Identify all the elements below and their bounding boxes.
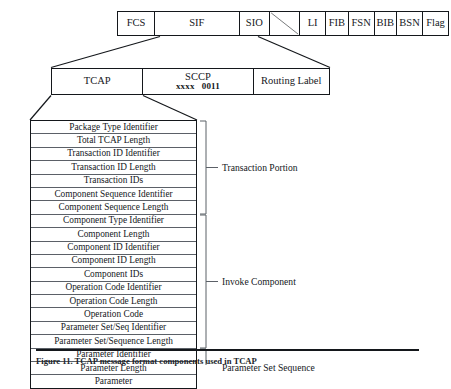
tcap-field-label: Operation Code	[84, 310, 143, 319]
figure-caption: Figure 11. TCAP message format component…	[36, 356, 436, 366]
tcap-field-row: Component ID Length	[31, 255, 196, 268]
frame-cell-flag: Flag	[423, 12, 448, 35]
tcap-field-label: Component ID Length	[71, 256, 155, 265]
footer-divider	[36, 349, 419, 351]
sif-cell-subvalue: xxxx0011	[176, 82, 220, 91]
frame-cell-fib: FIB	[326, 12, 349, 35]
sif-cell-routing-label: Routing Label	[254, 69, 329, 94]
bracket-label: Invoke Component	[222, 276, 296, 287]
tcap-field-row: Component Sequence Identifier	[31, 188, 196, 201]
tcap-field-label: Parameter Set/Sequence Length	[54, 337, 173, 346]
tcap-field-label: Component Sequence Length	[59, 203, 169, 212]
tcap-field-row: Parameter Set/Sequence Length	[31, 335, 196, 348]
tcap-field-row: Component ID Identifier	[31, 242, 196, 255]
frame-cell-fsn: FSN	[349, 12, 375, 35]
tcap-field-label: Component IDs	[84, 270, 143, 279]
tcap-field-row: Parameter	[31, 375, 196, 387]
sif-cell-label: TCAP	[84, 76, 111, 87]
msu-frame-row: FCSSIFSIOLIFIBFSNBIBBSNFlag	[117, 11, 449, 36]
tcap-field-row: Component Length	[31, 228, 196, 241]
tcap-field-row: Operation Code Identifier	[31, 282, 196, 295]
tcap-field-label: Transaction IDs	[84, 176, 143, 185]
tcap-field-label: Transaction ID Length	[71, 163, 155, 172]
tcap-field-row: Component IDs	[31, 268, 196, 281]
tcap-field-row: Component Sequence Length	[31, 201, 196, 214]
frame-cell-label: FCS	[127, 18, 146, 29]
tcap-field-label: Parameter	[95, 377, 133, 386]
frame-cell-bsn: BSN	[397, 12, 423, 35]
frame-cell-fcs: FCS	[118, 12, 155, 35]
sif-breakdown-row: TCAPSCCPxxxx0011Routing Label	[51, 68, 330, 95]
tcap-field-label: Component ID Identifier	[67, 243, 159, 252]
frame-cell-label: BIB	[377, 18, 395, 29]
sif-cell-label: Routing Label	[261, 76, 321, 87]
tcap-field-label: Total TCAP Length	[77, 136, 150, 145]
frame-cell-label: SIO	[246, 18, 263, 29]
tcap-field-label: Parameter Set/Seq Identifier	[61, 323, 166, 332]
frame-cell-label: LI	[308, 18, 318, 29]
tcap-field-row: Package Type Identifier	[31, 121, 196, 134]
tcap-field-label: Operation Code Length	[70, 297, 158, 306]
frame-cell-sif: SIF	[155, 12, 239, 35]
tcap-field-row: Operation Code Length	[31, 295, 196, 308]
tcap-field-label: Component Type Identifier	[63, 216, 164, 225]
tcap-field-label: Package Type Identifier	[69, 123, 158, 132]
tcap-field-row: Total TCAP Length	[31, 134, 196, 147]
frame-cell-bib: BIB	[375, 12, 398, 35]
frame-cell-label: FSN	[351, 18, 370, 29]
tcap-field-row: Transaction IDs	[31, 175, 196, 188]
diagonal-slash-icon	[270, 12, 300, 35]
frame-cell-label: Flag	[426, 18, 445, 29]
tcap-field-row: Transaction ID Identifier	[31, 148, 196, 161]
tcap-field-row: Transaction ID Length	[31, 161, 196, 174]
frame-cell-label: BSN	[399, 18, 419, 29]
tcap-field-row: Component Type Identifier	[31, 215, 196, 228]
frame-cell-li: LI	[300, 12, 326, 35]
frame-cell-sio: SIO	[240, 12, 270, 35]
sif-cell-tcap: TCAP	[52, 69, 143, 94]
tcap-field-label: Component Length	[77, 230, 149, 239]
frame-cell-label: FIB	[329, 18, 345, 29]
frame-cell-label: SIF	[189, 18, 204, 29]
tcap-field-row: Parameter Set/Seq Identifier	[31, 322, 196, 335]
sif-cell-sccp: SCCPxxxx0011	[143, 69, 253, 94]
tcap-field-label: Transaction ID Identifier	[67, 149, 160, 158]
tcap-field-row: Operation Code	[31, 308, 196, 321]
tcap-field-label: Component Sequence Identifier	[54, 190, 172, 199]
tcap-field-label: Operation Code Identifier	[65, 283, 161, 292]
bracket-label: Transaction Portion	[222, 162, 298, 173]
